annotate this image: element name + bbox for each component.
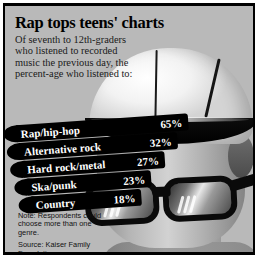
sunglasses-temple-arm (229, 172, 253, 192)
genre-percentage-list: Rap/hip-hop 65% Alternative rock 32% Har… (16, 113, 198, 215)
infographic-root: Rap tops teens' charts Of seventh to 12t… (0, 0, 262, 262)
source-text: Source: Kaiser Family Foundation (18, 241, 110, 255)
genre-label: Hard rock/metal (27, 158, 106, 175)
genre-label: Alternative rock (23, 140, 101, 157)
genre-label: Rap/hip-hop (20, 123, 80, 139)
page-title: Rap tops teens' charts (15, 14, 164, 31)
footnotes: Note: Respondents could choose more than… (18, 212, 110, 255)
genre-label: Ska/punk (31, 178, 77, 193)
genre-label: Country (35, 196, 75, 211)
genre-percent: 65% (160, 116, 183, 130)
genre-percent: 32% (149, 135, 172, 149)
deck-text: Of seventh to 12th-graders who listened … (15, 34, 141, 80)
genre-percent: 23% (123, 173, 146, 187)
genre-percent: 18% (113, 192, 136, 206)
infographic-panel: Rap tops teens' charts Of seventh to 12t… (3, 3, 255, 255)
genre-percent: 27% (136, 154, 159, 168)
note-text: Note: Respondents could choose more than… (18, 212, 110, 237)
